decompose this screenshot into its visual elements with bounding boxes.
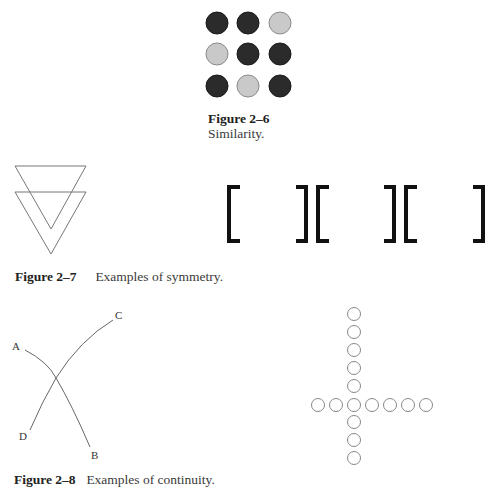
curve-label-b: B (91, 449, 98, 461)
symmetry-triangles (15, 166, 86, 254)
figure-2-8-number: Figure 2–8 (14, 472, 76, 487)
figure-artwork (0, 0, 501, 503)
symmetry-brackets (229, 187, 483, 241)
figure-2-8-text: Examples of continuity. (86, 472, 214, 487)
continuity-circle-cross (312, 308, 433, 465)
continuity-curves (25, 320, 113, 447)
curve-label-c: C (115, 309, 122, 321)
figure-2-6-number: Figure 2–6 (208, 111, 270, 126)
curve-label-d: D (19, 430, 27, 442)
similarity-dot-grid (206, 12, 291, 97)
figure-2-7-text: Examples of symmetry. (95, 269, 223, 284)
figure-2-8-caption: Figure 2–8 Examples of continuity. (14, 472, 215, 488)
figure-2-7-caption: Figure 2–7 Examples of symmetry. (15, 269, 223, 285)
curve-label-a: A (12, 340, 20, 352)
figure-2-6-text: Similarity. (208, 126, 270, 141)
figure-2-6-caption: Figure 2–6 Similarity. (208, 111, 270, 141)
figure-2-7-number: Figure 2–7 (15, 269, 77, 284)
